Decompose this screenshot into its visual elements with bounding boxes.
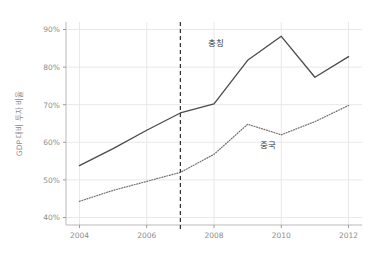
line-chart-svg: 40%50%60%70%80%90%20042006200820102012 충… <box>0 0 380 268</box>
y-axis-title: GDP 대비 투자 비율 <box>15 91 24 156</box>
x-tick-label-2006: 2006 <box>137 231 156 240</box>
y-tick-label-90%: 90% <box>43 25 60 34</box>
gridlines <box>66 22 362 225</box>
x-tick-label-2008: 2008 <box>204 231 223 240</box>
y-tick-label-70%: 70% <box>43 101 60 110</box>
series-label-0: 충칭 <box>208 38 224 48</box>
axis-ticks: 40%50%60%70%80%90%20042006200820102012 <box>43 25 358 240</box>
x-tick-label-2010: 2010 <box>272 231 291 240</box>
y-tick-label-40%: 40% <box>43 213 60 222</box>
chart-figure: 40%50%60%70%80%90%20042006200820102012 충… <box>0 0 380 268</box>
y-tick-label-50%: 50% <box>43 176 60 185</box>
y-tick-label-60%: 60% <box>43 138 60 147</box>
y-tick-label-80%: 80% <box>43 63 60 72</box>
series-labels: 충칭중국 <box>208 38 276 150</box>
series-label-1: 중국 <box>260 140 276 150</box>
x-tick-label-2004: 2004 <box>70 231 89 240</box>
x-tick-label-2012: 2012 <box>339 231 358 240</box>
axis-titles: GDP 대비 투자 비율 <box>15 91 24 156</box>
